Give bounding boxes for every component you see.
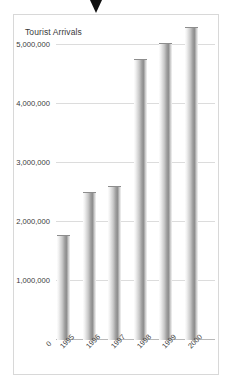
y-axis-tick-label: 3,000,000 xyxy=(13,158,50,167)
bar-1996[interactable] xyxy=(83,192,96,340)
chart-title: Tourist Arrivals xyxy=(25,27,82,37)
chart-frame: Tourist Arrivals 1,000,0002,000,0003,000… xyxy=(13,14,219,375)
bar-1995[interactable] xyxy=(57,235,70,340)
bar-1998[interactable] xyxy=(134,59,147,340)
y-axis-tick-label: 1,000,000 xyxy=(13,276,50,285)
bar-2000[interactable] xyxy=(185,27,198,340)
y-axis-tick-label: 2,000,000 xyxy=(13,217,50,226)
y-axis-tick-label: 4,000,000 xyxy=(13,99,50,108)
y-axis-tick-label-zero: 0 xyxy=(44,339,53,348)
cursor-marker-icon xyxy=(89,0,103,14)
bar-1997[interactable] xyxy=(108,186,121,340)
plot-area: Tourist Arrivals 1,000,0002,000,0003,000… xyxy=(14,15,218,374)
y-axis-tick-label: 5,000,000 xyxy=(13,40,50,49)
bar-1999[interactable] xyxy=(159,43,172,340)
